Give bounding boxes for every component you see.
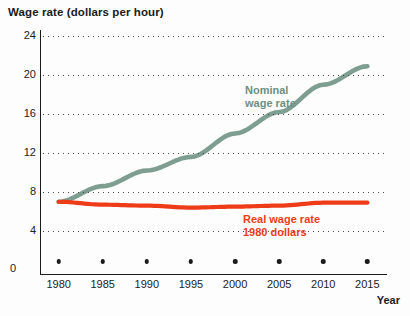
x-axis-label-2000: 2000: [223, 278, 247, 290]
y-axis-tick-labels: 2420161284: [0, 36, 36, 270]
y-axis-label-4: 4: [6, 224, 36, 236]
y-axis-label-20: 20: [6, 68, 36, 80]
real-wage-rate-label: Real wage rate 1980 dollars: [243, 213, 320, 239]
nominal-wage-rate-label: Nominal wage rate: [245, 84, 296, 110]
x-tick-dot-1985: [100, 259, 105, 264]
x-axis-label-1990: 1990: [135, 278, 159, 290]
y-axis-label-12: 12: [6, 146, 36, 158]
chart-x-axis-title: Year: [377, 294, 400, 306]
x-tick-dot-2005: [277, 259, 282, 264]
x-axis-label-1985: 1985: [90, 278, 114, 290]
x-tick-dot-2010: [321, 259, 326, 264]
x-tick-dot-2015: [365, 259, 370, 264]
wage-rate-line-chart: Wage rate (dollars per hour) 2420161284 …: [0, 0, 410, 316]
x-tick-dot-2000: [233, 259, 238, 264]
y-axis-label-8: 8: [6, 185, 36, 197]
x-axis-ticks: 19801985199019952000200520102015: [41, 0, 385, 316]
x-axis-label-1995: 1995: [179, 278, 203, 290]
y-axis-label-16: 16: [6, 107, 36, 119]
x-tick-dot-1995: [189, 259, 194, 264]
x-axis-label-1980: 1980: [46, 278, 70, 290]
x-tick-dot-1980: [56, 259, 61, 264]
x-tick-dot-1990: [145, 259, 150, 264]
x-axis-label-2015: 2015: [355, 278, 379, 290]
x-axis-label-2005: 2005: [267, 278, 291, 290]
y-axis-label-24: 24: [6, 29, 36, 41]
y-axis-zero-label: 0: [10, 262, 16, 274]
x-axis-label-2010: 2010: [311, 278, 335, 290]
